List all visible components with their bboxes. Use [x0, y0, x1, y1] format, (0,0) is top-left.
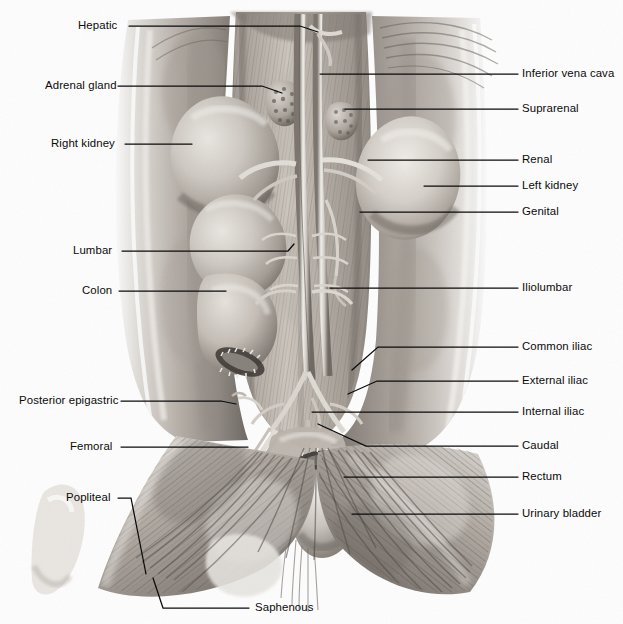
label-external-iliac: External iliac: [522, 374, 588, 386]
label-hepatic: Hepatic: [78, 19, 117, 31]
label-posterior-epigastric: Posterior epigastric: [19, 394, 119, 406]
label-left-kidney: Left kidney: [522, 179, 578, 191]
label-urinary-bladder: Urinary bladder: [522, 507, 601, 519]
label-iliolumbar: Iliolumbar: [522, 281, 572, 293]
label-popliteal: Popliteal: [66, 491, 111, 503]
label-rectum: Rectum: [522, 470, 562, 482]
anatomical-figure: HepaticAdrenal glandRight kidneyLumbarCo…: [0, 0, 623, 624]
label-right-kidney: Right kidney: [51, 137, 115, 149]
label-caudal: Caudal: [522, 439, 559, 451]
label-lumbar: Lumbar: [73, 244, 112, 256]
label-femoral: Femoral: [70, 440, 112, 452]
label-genital: Genital: [522, 205, 559, 217]
label-renal: Renal: [522, 153, 552, 165]
label-adrenal-gland: Adrenal gland: [45, 79, 117, 91]
label-suprarenal: Suprarenal: [522, 102, 579, 114]
label-saphenous: Saphenous: [255, 601, 314, 613]
label-common-iliac: Common iliac: [522, 340, 592, 352]
label-layer: HepaticAdrenal glandRight kidneyLumbarCo…: [0, 0, 623, 624]
label-colon: Colon: [82, 284, 112, 296]
label-inferior-vena-cava: Inferior vena cava: [522, 67, 614, 79]
label-internal-iliac: Internal iliac: [522, 405, 584, 417]
